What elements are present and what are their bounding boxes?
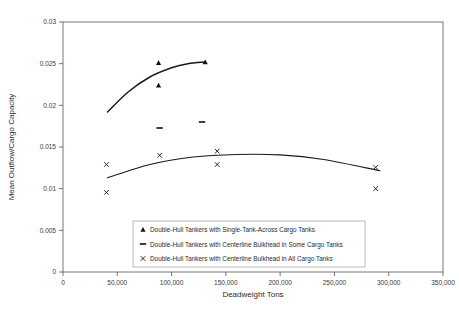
chart-container: 00.0050.010.0150.020.0250.03 050,000100,… xyxy=(0,0,459,315)
y-tick-label: 0.01 xyxy=(43,185,56,192)
y-tick-label: 0.015 xyxy=(40,143,57,150)
x-tick-label: 50,000 xyxy=(107,279,127,286)
y-tick-label: 0.03 xyxy=(43,18,56,25)
x-tick-label: 350,000 xyxy=(431,279,455,286)
legend-item-1[interactable]: Double-Hull Tankers with Single-Tank-Acr… xyxy=(140,226,315,234)
x-tick-label: 150,000 xyxy=(214,279,238,286)
y-tick-label: 0 xyxy=(52,268,56,275)
x-tick-label: 300,000 xyxy=(377,279,401,286)
x-tick-label: 0 xyxy=(61,279,65,286)
legend-item-label: Double-Hull Tankers with Single-Tank-Acr… xyxy=(150,226,315,234)
chart-legend: Double-Hull Tankers with Single-Tank-Acr… xyxy=(133,221,365,267)
x-axis-title: Deadweight Tons xyxy=(222,290,283,299)
x-tick-label: 100,000 xyxy=(160,279,184,286)
y-tick-label: 0.025 xyxy=(40,60,57,67)
y-axis-title: Mean Outflow/Cargo Capacity xyxy=(7,94,16,201)
x-tick-label: 200,000 xyxy=(268,279,292,286)
legend-item-3[interactable]: Double-Hull Tankers with Centerline Bulk… xyxy=(141,255,333,263)
y-tick-label: 0.02 xyxy=(43,102,56,109)
y-tick-label: 0.005 xyxy=(40,227,57,234)
legend-item-label: Double-Hull Tankers with Centerline Bulk… xyxy=(150,241,343,249)
legend-item-2[interactable]: Double-Hull Tankers with Centerline Bulk… xyxy=(140,241,343,249)
mean-outflow-scatter-chart: 00.0050.010.0150.020.0250.03 050,000100,… xyxy=(0,0,459,315)
legend-items: Double-Hull Tankers with Single-Tank-Acr… xyxy=(140,226,343,263)
legend-item-label: Double-Hull Tankers with Centerline Bulk… xyxy=(150,255,333,263)
chart-background xyxy=(0,0,459,315)
x-tick-label: 250,000 xyxy=(323,279,347,286)
